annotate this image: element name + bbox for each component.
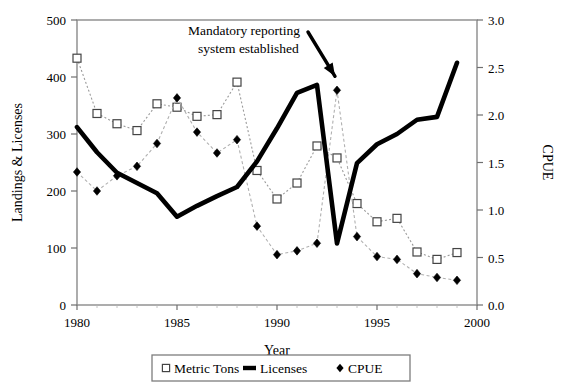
y2-tick-label: 3.0 bbox=[488, 13, 504, 28]
x-tick-label: 1985 bbox=[164, 315, 190, 330]
y2-tick-label: 1.5 bbox=[488, 156, 504, 171]
y-tick-label: 200 bbox=[47, 184, 67, 199]
metric-tons-marker bbox=[193, 112, 201, 120]
metric-tons-marker bbox=[273, 195, 281, 203]
metric-tons-marker bbox=[353, 200, 361, 208]
y-axis-title: Landings & Licenses bbox=[10, 103, 25, 222]
metric-tons-marker bbox=[233, 78, 241, 86]
metric-tons-marker bbox=[213, 111, 221, 119]
y2-tick-label: 2.5 bbox=[488, 61, 504, 76]
metric-tons-marker bbox=[73, 54, 81, 62]
metric-tons-marker bbox=[153, 100, 161, 108]
y-tick-label: 100 bbox=[47, 241, 67, 256]
legend-marker-metric-tons bbox=[162, 364, 169, 371]
x-tick-label: 1990 bbox=[264, 315, 290, 330]
y2-tick-label: 0.0 bbox=[488, 298, 504, 313]
metric-tons-marker bbox=[393, 214, 401, 222]
metric-tons-marker bbox=[293, 179, 301, 187]
legend-label-cpue: CPUE bbox=[348, 361, 383, 376]
y-tick-label: 300 bbox=[47, 127, 67, 142]
metric-tons-marker bbox=[173, 103, 181, 111]
legend-label-metric-tons: Metric Tons bbox=[174, 361, 239, 376]
y2-tick-label: 2.0 bbox=[488, 108, 504, 123]
metric-tons-marker bbox=[333, 154, 341, 162]
y2-axis-title: CPUE bbox=[540, 145, 555, 181]
x-tick-label: 1995 bbox=[364, 315, 390, 330]
metric-tons-marker bbox=[313, 142, 321, 150]
y-tick-label: 0 bbox=[60, 298, 67, 313]
metric-tons-marker bbox=[93, 109, 101, 117]
metric-tons-marker bbox=[113, 120, 121, 128]
metric-tons-marker bbox=[433, 255, 441, 263]
annotation-line-2: system established bbox=[198, 41, 299, 56]
metric-tons-marker bbox=[373, 218, 381, 226]
chart-container: 19801985199019952000 0100200300400500 0.… bbox=[0, 0, 562, 392]
y-tick-label: 500 bbox=[47, 13, 67, 28]
metric-tons-marker bbox=[133, 127, 141, 135]
metric-tons-marker bbox=[453, 249, 461, 257]
y-tick-label: 400 bbox=[47, 70, 67, 85]
x-tick-label: 2000 bbox=[464, 315, 490, 330]
legend-label-licenses: Licenses bbox=[260, 361, 307, 376]
y2-tick-label: 0.5 bbox=[488, 251, 504, 266]
annotation-line-1: Mandatory reporting bbox=[188, 23, 300, 38]
metric-tons-marker bbox=[413, 248, 421, 256]
fisheries-trend-chart: 19801985199019952000 0100200300400500 0.… bbox=[0, 0, 562, 392]
y2-tick-label: 1.0 bbox=[488, 203, 504, 218]
x-tick-label: 1980 bbox=[64, 315, 90, 330]
chart-legend: Metric TonsLicensesCPUE bbox=[152, 355, 410, 381]
